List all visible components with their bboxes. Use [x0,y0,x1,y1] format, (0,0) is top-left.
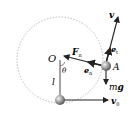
tangent-unit-arrow [106,48,110,63]
label-origin: O [48,53,56,64]
ball-bottom [55,95,65,105]
label-point-a: A [112,62,120,72]
ball-a [101,61,111,71]
label-length: l [52,77,55,87]
label-gravity: mg [109,82,124,92]
diagram-canvas: O θ l A v et Fn en mg v0 [0,0,133,121]
label-normal-unit: en [84,65,93,76]
angle-arc [60,62,65,66]
label-initial-velocity: v0 [111,96,119,107]
label-velocity: v [109,10,115,20]
label-normal-force: Fn [71,47,82,58]
label-tangent-unit: et [111,44,118,55]
label-angle: θ [62,67,67,75]
